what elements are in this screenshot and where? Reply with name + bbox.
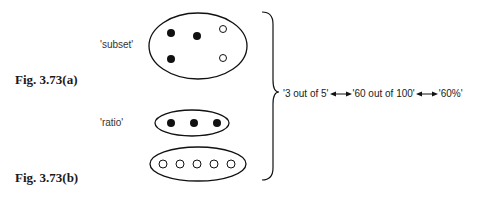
- ratio-caption: 'ratio': [100, 117, 123, 128]
- curly-brace: [262, 12, 279, 180]
- ratio-filled-set: [155, 110, 229, 136]
- hollow-dot: [227, 160, 235, 168]
- subset-set: [149, 13, 247, 79]
- hollow-dot: [220, 26, 227, 33]
- hundred-text: '60 out of 100': [353, 88, 415, 99]
- hollow-dot: [159, 160, 167, 168]
- diagram-graphics: [0, 0, 487, 198]
- filled-dot: [167, 119, 175, 127]
- subset-caption: 'subset': [100, 39, 133, 50]
- diagram-canvas: Fig. 3.73(a) 'subset' 'ratio' Fig. 3.73(…: [0, 0, 487, 198]
- figure-b-label: Fig. 3.73(b): [15, 170, 78, 186]
- filled-dot: [213, 119, 221, 127]
- ratio-hollow-set: [150, 147, 246, 181]
- hollow-dot: [210, 160, 218, 168]
- figure-a-label: Fig. 3.73(a): [15, 72, 77, 88]
- hollow-dot: [193, 160, 201, 168]
- filled-dot: [167, 55, 175, 63]
- fraction-text: '3 out of 5': [283, 88, 329, 99]
- subset-ellipse: [149, 13, 247, 79]
- filled-dot: [193, 32, 201, 40]
- equivalence-chain: '3 out of 5' '60 out of 100' '60%': [283, 88, 463, 99]
- filled-dot: [167, 29, 175, 37]
- percent-text: '60%': [439, 88, 463, 99]
- double-arrow-icon: [416, 90, 438, 98]
- hollow-dot: [176, 160, 184, 168]
- double-arrow-icon: [330, 90, 352, 98]
- hollow-dot: [220, 55, 227, 62]
- filled-dot: [190, 119, 198, 127]
